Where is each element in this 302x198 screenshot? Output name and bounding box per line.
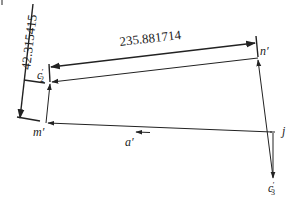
tick-c2 xyxy=(49,64,50,82)
tick-n xyxy=(256,36,258,57)
label-a: a′ xyxy=(125,135,134,149)
vertical-dimension: 42.315415 xyxy=(17,4,45,121)
label-m: m′ xyxy=(33,125,45,139)
line-m-to-c2 xyxy=(46,84,50,123)
vertical-dimension-label: 42.315415 xyxy=(18,14,40,71)
line-j-to-m xyxy=(48,123,272,132)
arrow-a xyxy=(136,132,150,133)
horizontal-dimension-line xyxy=(51,43,255,67)
horizontal-dimension: 235.881714 xyxy=(49,27,258,82)
horizontal-dimension-label: 235.881714 xyxy=(119,27,183,49)
label-j: j xyxy=(280,124,286,138)
drawing-canvas: 42.315415 235.881714 c′2 n′ m′ a′ j c′3 xyxy=(0,0,302,198)
extension-line-m xyxy=(17,117,40,121)
label-c3: c′3 xyxy=(268,181,275,197)
label-c2: c′2 xyxy=(37,68,44,84)
label-c3-sub: 3 xyxy=(271,188,275,197)
label-n: n′ xyxy=(260,44,269,58)
label-c2-sub: 2 xyxy=(40,75,44,84)
line-n-to-c2 xyxy=(52,58,258,82)
line-c3-to-n xyxy=(258,60,273,177)
